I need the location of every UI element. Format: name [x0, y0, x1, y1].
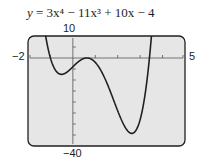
graph-screen	[0, 0, 204, 163]
screen-frame	[28, 36, 185, 146]
